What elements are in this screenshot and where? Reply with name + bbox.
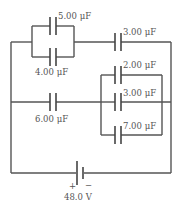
label-3uF-top: 3.00 μF	[123, 28, 156, 37]
battery-voltage-label: 48.0 V	[64, 193, 92, 202]
label-3uF-mid: 3.00 μF	[123, 89, 156, 98]
battery-plus-sign: +	[69, 182, 76, 191]
label-5uF: 5.00 μF	[58, 12, 91, 21]
battery-minus-sign: −	[85, 181, 92, 190]
label-6uF: 6.00 μF	[35, 115, 68, 124]
label-2uF: 2.00 μF	[123, 61, 156, 70]
label-7uF: 7.00 μF	[123, 122, 156, 131]
label-4uF: 4.00 μF	[35, 68, 68, 77]
